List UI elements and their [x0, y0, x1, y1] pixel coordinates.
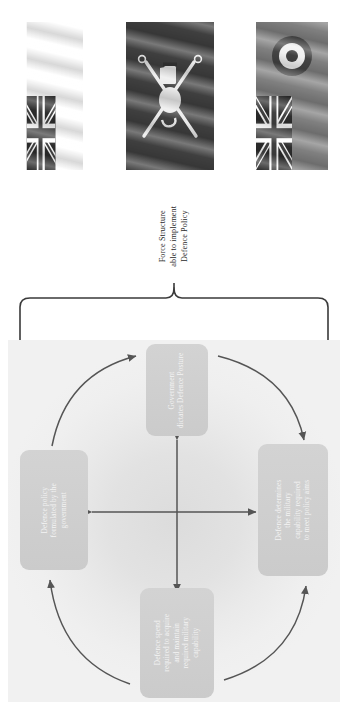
edge-bottom-to-right [224, 586, 306, 680]
caption-line-2: able to implement [169, 206, 180, 267]
node-top-line-2: dictates Defence Posture [177, 352, 186, 428]
node-defence-spend-required[interactable]: Defence spend required to acquire and ma… [140, 588, 214, 698]
figure-caption: Force Structure able to implement Defenc… [131, 186, 217, 286]
army-crest-icon [126, 22, 214, 170]
edge-left-to-top [52, 356, 136, 446]
node-defence-determines-military-capability[interactable]: Defence determines the military capabili… [258, 444, 328, 576]
caption-line-1: Force Structure [158, 206, 169, 267]
node-left-line-2: formulated by the [49, 483, 58, 537]
caption-line-3: Defence Policy [179, 206, 190, 267]
node-right-line-4: to meet policy aims [302, 480, 311, 541]
service-flags-strip [0, 22, 348, 172]
node-left-line-1: Defence policy [40, 483, 49, 537]
flag-british-army [126, 22, 214, 170]
flag-white-ensign [26, 22, 83, 170]
node-top-line-1: Government [168, 352, 177, 428]
node-left-line-3: government [59, 483, 68, 537]
node-bottom-line-1: Defence spend [153, 614, 162, 672]
node-right-line-1: Defence determines [274, 480, 283, 541]
defence-policy-cycle-diagram: Government dictates Defence Posture Defe… [8, 340, 340, 702]
curly-brace [8, 283, 340, 345]
edge-bottom-to-left [50, 580, 130, 684]
node-bottom-line-5: capability [191, 614, 200, 672]
node-bottom-line-2: required to acquire [163, 614, 172, 672]
node-right-line-2: the military [284, 480, 293, 541]
node-bottom-line-4: required military [182, 614, 191, 672]
node-defence-policy-formulated-by-government[interactable]: Defence policy formulated by the governm… [20, 450, 88, 570]
node-government-dictates-defence-posture[interactable]: Government dictates Defence Posture [146, 344, 208, 436]
node-bottom-line-3: and maintain [172, 614, 181, 672]
node-right-line-3: capability required [293, 480, 302, 541]
flag-raf-ensign [256, 22, 328, 170]
edge-top-to-right [218, 356, 304, 440]
